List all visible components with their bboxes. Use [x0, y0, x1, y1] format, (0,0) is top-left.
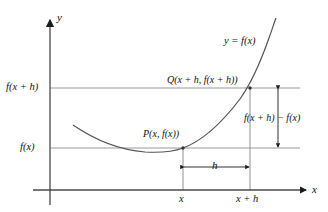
run-measure-label: h — [212, 160, 218, 171]
diagram-svg — [0, 0, 328, 212]
point-q-marker — [248, 86, 251, 89]
curve-label: y = f(x) — [224, 36, 256, 47]
x-tick-label-left: x — [179, 194, 184, 205]
point-q-label: Q(x + h, f(x + h)) — [167, 75, 238, 85]
y-axis-label: y — [57, 12, 62, 23]
rise-measure-label: f(x + h) − f(x) — [244, 113, 300, 123]
point-p-marker — [181, 146, 184, 149]
y-value-lower-label: f(x) — [20, 142, 35, 153]
figure-canvas: y x f(x + h) f(x) y = f(x) Q(x + h, f(x … — [0, 0, 328, 212]
point-p-label: P(x, f(x)) — [143, 129, 179, 139]
y-value-upper-label: f(x + h) — [6, 82, 38, 93]
x-tick-label-right: x + h — [236, 194, 258, 205]
x-axis-label: x — [312, 184, 317, 195]
